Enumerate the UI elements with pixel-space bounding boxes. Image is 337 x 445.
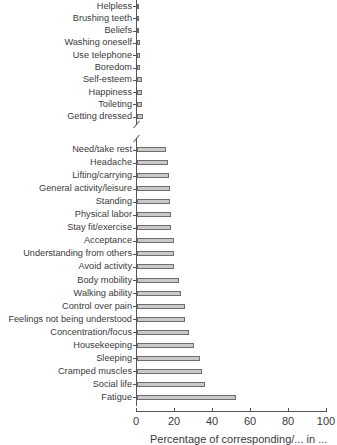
bar <box>137 395 236 400</box>
bar <box>137 114 143 119</box>
category-label: Feelings not being understood <box>8 314 132 325</box>
category-label: Boredom <box>95 62 132 73</box>
bar <box>137 65 140 70</box>
bar <box>137 40 140 45</box>
bar <box>137 382 205 387</box>
category-label: Body mobility <box>77 275 132 286</box>
bar <box>137 90 142 95</box>
category-label: Social life <box>93 379 132 390</box>
y-axis-lower <box>136 138 137 406</box>
bar <box>137 28 139 33</box>
category-label: Control over pain <box>62 301 132 312</box>
bar <box>137 304 185 309</box>
x-tick <box>174 408 175 412</box>
category-label: Need/take rest <box>72 144 132 155</box>
bar <box>137 77 142 82</box>
x-axis <box>136 411 327 412</box>
category-label: Lifting/carrying <box>72 170 132 181</box>
category-label: Self-esteem <box>83 74 132 85</box>
category-label: Sleeping <box>96 353 132 364</box>
x-tick-label: 0 <box>121 415 151 427</box>
category-label: Use telephone <box>73 50 132 61</box>
x-tick-label: 60 <box>235 415 265 427</box>
bar <box>137 186 170 191</box>
x-tick <box>326 408 327 412</box>
category-label: Washing oneself <box>64 37 132 48</box>
x-tick-label: 20 <box>159 415 189 427</box>
bar <box>137 251 174 256</box>
category-label: Fatigue <box>101 392 132 403</box>
category-label: Happiness <box>89 87 132 98</box>
bar <box>137 147 166 152</box>
category-label: Stay fit/exercise <box>67 222 132 233</box>
category-label: Cramped muscles <box>58 366 132 377</box>
bar <box>137 343 194 348</box>
x-tick-label: 100 <box>311 415 337 427</box>
x-tick <box>288 408 289 412</box>
bar <box>137 4 139 9</box>
category-label: Walking ability <box>74 288 132 299</box>
bar <box>137 102 142 107</box>
x-tick <box>250 408 251 412</box>
bar <box>137 199 170 204</box>
bar <box>137 225 171 230</box>
x-tick <box>212 408 213 412</box>
x-tick-label: 40 <box>197 415 227 427</box>
category-label: Standing <box>96 196 132 207</box>
bar <box>137 317 185 322</box>
bar <box>137 369 202 374</box>
x-tick <box>136 408 137 412</box>
bar <box>137 291 181 296</box>
bar <box>137 238 174 243</box>
category-label: Physical labor <box>75 209 132 220</box>
x-tick-label: 80 <box>273 415 303 427</box>
axis-break-mark <box>133 121 140 129</box>
category-label: Helpless <box>97 1 132 12</box>
bar <box>137 212 171 217</box>
category-label: Understanding from others <box>23 248 132 259</box>
category-label: Beliefs <box>104 25 132 36</box>
bar <box>137 160 168 165</box>
category-label: Headache <box>90 157 132 168</box>
bar <box>137 173 169 178</box>
y-axis-upper <box>136 0 137 124</box>
bar <box>137 330 189 335</box>
category-label: Brushing teeth <box>73 13 132 24</box>
bar <box>137 356 200 361</box>
category-label: Acceptance <box>84 235 132 246</box>
category-label: Concentration/focus <box>50 327 132 338</box>
bar <box>137 53 140 58</box>
bar <box>137 264 174 269</box>
category-label: General activity/leisure <box>39 183 132 194</box>
category-label: Housekeeping <box>73 340 132 351</box>
bar <box>137 16 139 21</box>
category-label: Getting dressed <box>67 111 132 122</box>
bar <box>137 278 179 283</box>
category-label: Toileting <box>98 99 132 110</box>
category-label: Avoid activity <box>79 261 132 272</box>
x-axis-label: Percentage of corresponding/... in ... <box>150 433 327 445</box>
